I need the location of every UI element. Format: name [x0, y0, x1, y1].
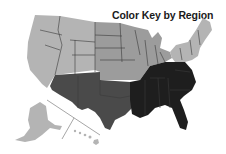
alaska-inset — [15, 102, 62, 142]
region-northeast — [170, 18, 212, 62]
region-southwest — [50, 72, 132, 130]
us-map — [0, 0, 226, 154]
